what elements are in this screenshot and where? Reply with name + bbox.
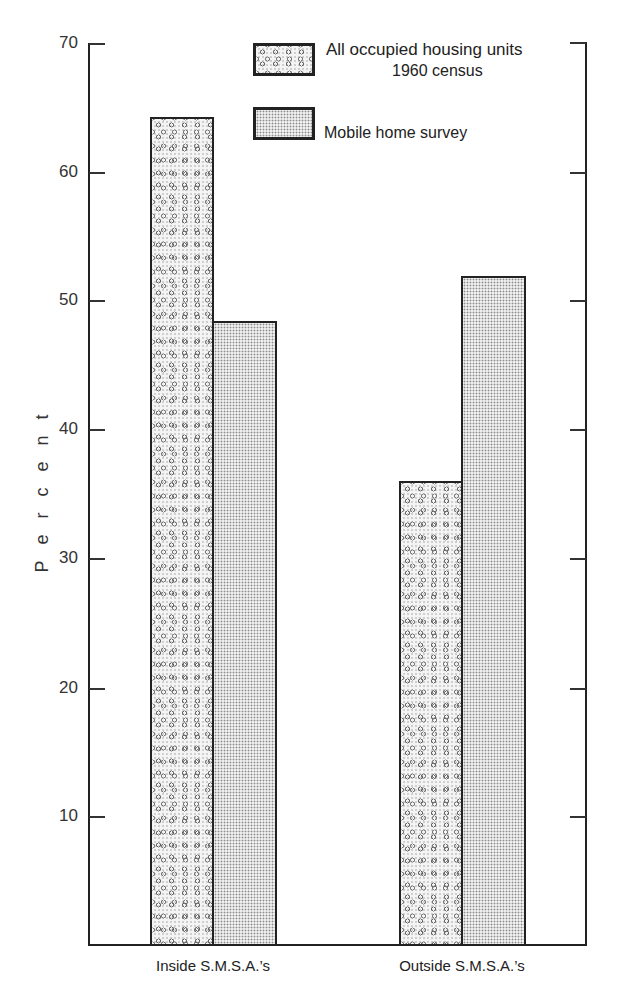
y-tick-50: 50 <box>38 290 78 310</box>
legend-swatch-mobile <box>253 107 315 140</box>
legend-label-census-line1: All occupied housing units <box>326 40 523 60</box>
legend-label-mobile: Mobile home survey <box>324 124 467 142</box>
bar-inside-census <box>150 117 214 946</box>
bar-outside-mobile <box>461 276 526 946</box>
left-axis <box>88 43 90 946</box>
y-tick-40: 40 <box>38 419 78 439</box>
category-outside: Outside S.M.S.A.’s <box>362 957 562 974</box>
y-tick-70: 70 <box>38 33 78 53</box>
right-axis <box>585 42 587 946</box>
y-tick-20: 20 <box>38 678 78 698</box>
legend-swatch-census <box>253 43 315 76</box>
y-tick-10: 10 <box>38 806 78 826</box>
y-tick-30: 30 <box>38 548 78 568</box>
bar-outside-census <box>399 481 463 946</box>
chart: Percent 70 60 50 40 30 20 10 Inside S.M. <box>0 0 617 993</box>
legend-label-census-line2: 1960 census <box>392 62 483 80</box>
category-inside: Inside S.M.S.A.’s <box>113 957 313 974</box>
y-tick-60: 60 <box>38 162 78 182</box>
bar-inside-mobile <box>212 321 277 946</box>
